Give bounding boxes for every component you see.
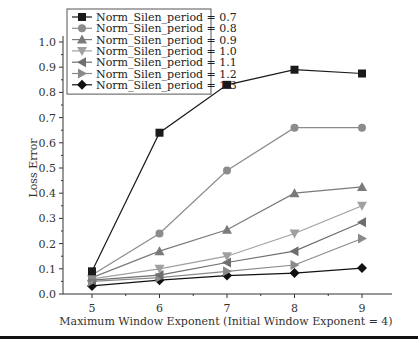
x-tick-label: 8 [291,302,298,315]
legend-label: Norm_Silen_period = 1.3 [96,79,237,92]
legend-item: Norm_Silen_period = 1.3 [72,79,237,92]
y-tick-label: 1.0 [39,36,57,49]
x-tick-label: 6 [156,302,163,315]
y-tick-label: 0.9 [39,61,57,74]
data-point [358,124,366,132]
series-line [92,206,362,279]
data-point [357,182,367,191]
y-tick-label: 0.3 [39,212,57,225]
data-point [291,66,299,74]
data-point [88,267,96,275]
data-point [291,124,299,132]
y-tick-label: 0.8 [39,86,57,99]
y-tick-label: 0.1 [39,263,57,276]
data-point [358,70,366,78]
data-point [290,230,300,239]
line-chart: 0.00.10.20.30.40.50.60.70.80.91.056789 N… [0,0,418,347]
data-point [357,202,367,211]
x-axis-title: Maximum Window Exponent (Initial Window … [59,315,392,328]
x-tick-label: 5 [89,302,96,315]
series-layer [87,66,367,291]
y-tick-label: 0.6 [39,137,57,150]
data-point [291,260,300,270]
data-point [222,225,232,234]
bottom-rule-divider [0,336,418,339]
x-tick-label: 7 [224,302,231,315]
data-point [156,129,164,137]
data-point [357,263,367,273]
y-axis-title: Loss Error [27,138,40,198]
legend: Norm_Silen_period = 0.7Norm_Silen_period… [67,9,237,94]
legend-marker [78,24,86,32]
data-point [357,217,366,227]
y-tick-label: 0.2 [39,238,57,251]
series-0.9 [87,182,367,282]
x-tick-label: 9 [359,302,366,315]
data-point [223,167,231,175]
data-point [290,246,299,256]
data-point [156,230,164,238]
y-tick-label: 0.4 [39,187,57,200]
y-tick-label: 0.0 [39,288,57,301]
y-tick-label: 0.7 [39,112,57,125]
data-point [358,234,367,244]
legend-marker [78,13,86,21]
y-tick-label: 0.5 [39,162,57,175]
